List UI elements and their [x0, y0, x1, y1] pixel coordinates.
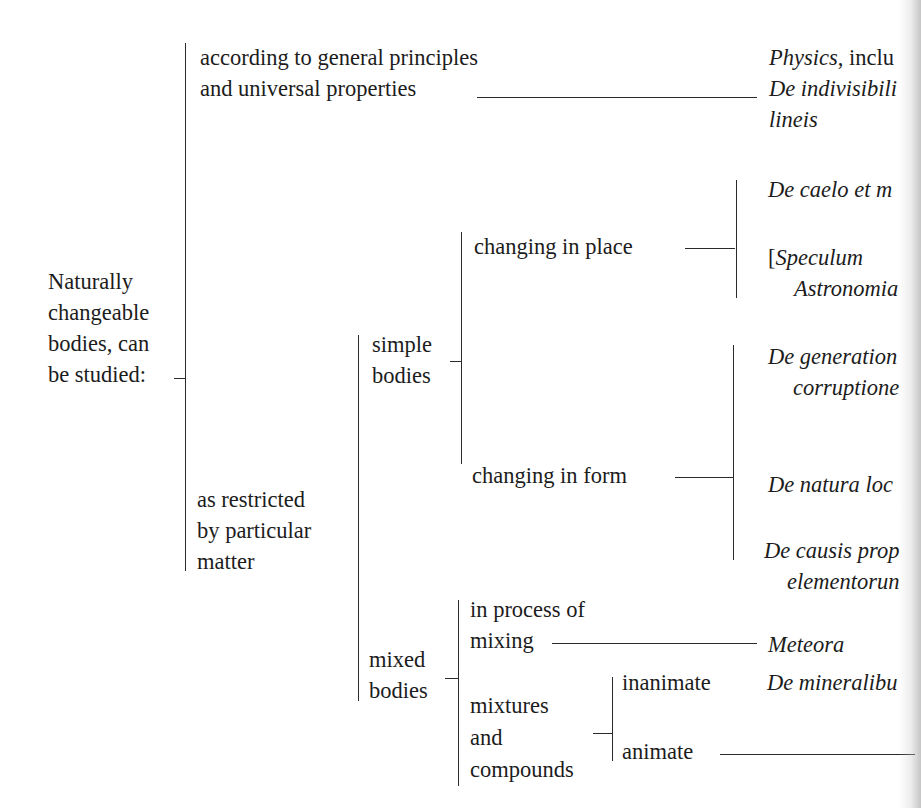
work-speculum-cont: Astronomia — [794, 273, 898, 305]
in-process-label: in process of — [470, 594, 585, 626]
root-label-line: changeable — [48, 297, 149, 329]
diagram-canvas: Naturally changeable bodies, can be stud… — [0, 0, 921, 808]
work-de-indivisibilibus: De indivisibili — [769, 73, 897, 105]
simple-bodies-connector — [450, 361, 461, 362]
work-physics: Physics, inclu — [769, 42, 894, 74]
work-de-indivisibilibus-cont: lineis — [769, 104, 818, 136]
simple-bodies-label: bodies — [372, 360, 431, 392]
restricted-bracket — [358, 335, 359, 701]
simple-bodies-bracket — [461, 232, 462, 464]
branch-general-label: and universal properties — [200, 73, 416, 105]
branch-general-label: according to general principles — [200, 42, 478, 74]
work-de-mineralibus: De mineralibu — [767, 667, 898, 699]
work-meteora: Meteora — [768, 629, 844, 661]
branch-general-connector — [477, 97, 757, 98]
page-edge-shadow — [899, 0, 921, 808]
in-process-connector — [552, 643, 757, 644]
compounds-label: compounds — [470, 754, 574, 786]
mixed-bodies-label: bodies — [369, 675, 428, 707]
animate-label: animate — [622, 736, 693, 768]
root-connector — [174, 378, 185, 379]
simple-bodies-label: simple — [372, 329, 432, 361]
changing-in-place-label: changing in place — [474, 231, 633, 263]
mixed-bodies-connector — [445, 678, 458, 679]
work-de-caelo: De caelo et m — [768, 174, 892, 206]
work-de-natura-locorum: De natura loc — [768, 469, 893, 501]
work-speculum: [Speculum — [768, 242, 863, 274]
work-de-generatione: De generation — [768, 341, 897, 373]
compounds-label: mixtures — [470, 690, 549, 722]
work-de-causis-cont: elementorun — [787, 566, 899, 598]
work-de-causis: De causis prop — [764, 535, 899, 567]
inanimate-label: inanimate — [622, 667, 711, 699]
branch-restricted-label: as restricted — [197, 484, 305, 516]
root-bracket — [185, 43, 186, 571]
mixed-bodies-label: mixed — [369, 644, 425, 676]
root-label-line: Naturally — [48, 266, 133, 298]
compounds-bracket — [612, 677, 613, 761]
branch-restricted-label: by particular — [197, 515, 311, 547]
root-label-line: be studied: — [48, 359, 146, 391]
work-de-generatione-cont: corruptione — [793, 372, 899, 404]
mixed-bodies-bracket — [458, 600, 459, 786]
changing-in-place-connector — [685, 248, 735, 249]
changing-in-place-bracket — [736, 180, 737, 298]
in-process-label: mixing — [470, 625, 534, 657]
compounds-connector — [593, 733, 612, 734]
changing-in-form-connector — [675, 477, 733, 478]
compounds-label: and — [470, 722, 503, 754]
animate-connector — [720, 754, 915, 755]
changing-in-form-label: changing in form — [472, 460, 627, 492]
changing-in-form-bracket — [733, 345, 734, 560]
branch-restricted-label: matter — [197, 546, 254, 578]
root-label-line: bodies, can — [48, 328, 149, 360]
